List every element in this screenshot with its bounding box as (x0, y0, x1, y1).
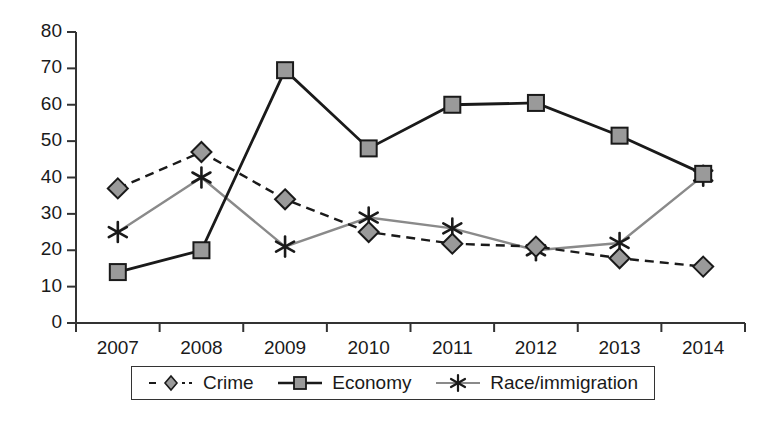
x-axis-tick-labels: 20072008200920102011201220132014 (97, 337, 725, 358)
chart-legend: Crime Economy Race/immigration (131, 366, 655, 400)
x-tick-label: 2010 (348, 337, 390, 358)
data-point-race-immigration (109, 222, 127, 242)
x-tick-label: 2008 (180, 337, 222, 358)
x-axis-ticks (76, 323, 745, 332)
x-tick-label: 2009 (264, 337, 306, 358)
y-axis-ticks (67, 32, 76, 323)
data-point-economy (528, 95, 544, 111)
data-point-race-immigration (192, 168, 210, 188)
legend-label-economy: Economy (332, 372, 411, 394)
y-axis-tick-labels: 01020304050607080 (41, 20, 62, 332)
x-tick-label: 2011 (432, 337, 473, 358)
legend-label-crime: Crime (203, 372, 254, 394)
x-tick-label: 2013 (598, 337, 640, 358)
y-tick-label: 50 (41, 129, 62, 150)
y-tick-label: 40 (41, 166, 62, 187)
data-point-crime (359, 222, 379, 242)
data-point-economy (110, 264, 126, 280)
y-tick-label: 20 (41, 238, 62, 259)
y-tick-label: 30 (41, 202, 62, 223)
data-point-crime (442, 234, 462, 254)
data-point-economy (612, 128, 628, 144)
data-point-economy (695, 166, 711, 182)
data-point-crime (191, 142, 211, 162)
data-point-economy (361, 140, 377, 156)
chart-plot-area: 20072008200920102011201220132014 0102030… (0, 0, 776, 423)
series-markers (108, 62, 713, 280)
y-tick-label: 80 (41, 20, 62, 41)
y-tick-label: 10 (41, 275, 62, 296)
y-tick-label: 60 (41, 93, 62, 114)
x-tick-label: 2007 (97, 337, 139, 358)
y-tick-label: 70 (41, 56, 62, 77)
data-point-crime (108, 178, 128, 198)
legend-item-economy[interactable]: Economy (277, 372, 411, 394)
x-tick-label: 2012 (515, 337, 557, 358)
data-point-economy (193, 242, 209, 258)
y-tick-label: 0 (51, 311, 62, 332)
legend-item-crime[interactable]: Crime (148, 372, 254, 394)
line-chart: 20072008200920102011201220132014 0102030… (0, 0, 776, 423)
legend-item-race-immigration[interactable]: Race/immigration (435, 372, 638, 394)
legend-label-race-immigration: Race/immigration (490, 372, 638, 394)
x-tick-label: 2014 (682, 337, 725, 358)
legend-swatch-crime-icon (148, 373, 194, 393)
data-point-crime (693, 257, 713, 277)
legend-swatch-race-immigration-icon (435, 373, 481, 393)
data-point-crime (275, 189, 295, 209)
data-point-economy (277, 62, 293, 78)
data-point-economy (444, 97, 460, 113)
data-point-race-immigration (276, 237, 294, 257)
data-point-crime (610, 248, 630, 268)
legend-swatch-economy-icon (277, 373, 323, 393)
